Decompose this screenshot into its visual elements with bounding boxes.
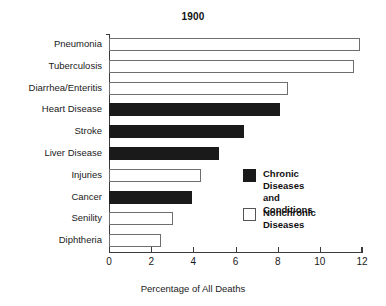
x-tick-mark [320,247,321,253]
category-label: Stroke [75,125,102,137]
category-label: Tuberculosis [48,60,102,72]
x-axis-title: Percentage of All Deaths [0,283,386,294]
bar-row [109,99,362,121]
bar-row [109,208,362,230]
x-tick-mark [193,247,194,253]
x-tick-label: 10 [300,256,340,267]
bar-row [109,121,362,143]
category-label: Injuries [71,169,102,181]
x-tick-label: 6 [216,256,256,267]
bar-row [109,56,362,78]
x-tick-label: 4 [173,256,213,267]
x-tick-mark [109,247,110,253]
category-label: Diphtheria [59,234,102,246]
plot-area: 024681012 [109,34,362,252]
category-label: Liver Disease [44,147,102,159]
chart-title: 1900 [0,11,386,22]
bar [109,234,161,247]
x-tick-mark [151,247,152,253]
bar-row [109,187,362,209]
bar-row [109,78,362,100]
category-label: Diarrhea/Enteritis [29,82,102,94]
bar-row [109,165,362,187]
category-label: Pneumonia [54,38,102,50]
x-tick-label: 8 [258,256,298,267]
category-label: Cancer [71,191,102,203]
category-label: Heart Disease [42,103,102,115]
x-tick-label: 2 [131,256,171,267]
bar [109,147,219,160]
bar [109,38,360,51]
x-tick-label: 0 [89,256,129,267]
x-tick-label: 12 [342,256,382,267]
bar [109,191,192,204]
chart-figure: 1900 024681012 PneumoniaTuberculosisDiar… [0,0,386,306]
bar [109,82,288,95]
x-tick-mark [278,247,279,253]
legend-item-nonchronic: Nonchronic Diseases [243,207,316,231]
bar [109,125,244,138]
bar [109,60,354,73]
legend-swatch-nonchronic-icon [243,208,256,221]
x-tick-mark [362,247,363,253]
bar-row [109,143,362,165]
bar-row [109,34,362,56]
x-tick-mark [236,247,237,253]
legend-label-nonchronic: Nonchronic Diseases [263,207,316,231]
bar [109,212,173,225]
legend-swatch-chronic-icon [243,169,256,182]
bar [109,169,201,182]
category-label: Senility [71,212,102,224]
bar [109,103,280,116]
